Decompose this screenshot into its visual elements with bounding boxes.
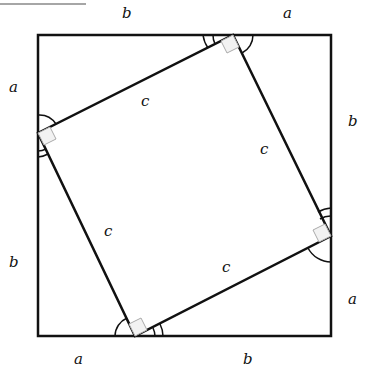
label-left-b: b bbox=[9, 253, 19, 271]
label-top-b: b bbox=[122, 4, 132, 22]
label-bottom-b: b bbox=[243, 350, 253, 368]
label-c-left: c bbox=[104, 222, 112, 240]
label-top-a: a bbox=[283, 4, 292, 22]
label-c-top: c bbox=[141, 92, 149, 110]
label-right-a: a bbox=[348, 290, 357, 308]
right-angle-markers bbox=[38, 35, 331, 336]
inner-square bbox=[38, 35, 331, 336]
label-right-b: b bbox=[348, 112, 358, 130]
pythagoras-diagram bbox=[0, 0, 367, 370]
label-bottom-a: a bbox=[74, 350, 83, 368]
label-c-bottom: c bbox=[222, 258, 230, 276]
outer-square bbox=[38, 35, 331, 336]
label-c-right: c bbox=[260, 140, 268, 158]
angle-arcs bbox=[38, 35, 331, 336]
label-left-a: a bbox=[9, 78, 18, 96]
